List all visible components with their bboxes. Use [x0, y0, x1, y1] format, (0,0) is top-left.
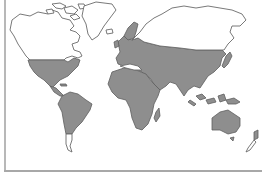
region-usa-mexico [28, 58, 80, 88]
region-new-guinea [226, 98, 240, 104]
region-iceland [106, 29, 113, 34]
region-australia [212, 110, 240, 134]
region-madagascar [154, 108, 160, 122]
world-map [0, 0, 262, 176]
region-indonesia [188, 94, 226, 106]
region-patagonia [66, 134, 72, 152]
region-greenland [82, 2, 116, 40]
region-british-isles [114, 40, 119, 48]
region-nz-north [254, 130, 258, 140]
region-nz-south [246, 140, 256, 152]
region-south-america [58, 92, 92, 134]
region-siberia [132, 6, 246, 50]
region-central-america [50, 86, 64, 96]
region-tasmania [230, 137, 234, 141]
region-caribbean [60, 84, 67, 86]
map-frame [0, 0, 262, 176]
